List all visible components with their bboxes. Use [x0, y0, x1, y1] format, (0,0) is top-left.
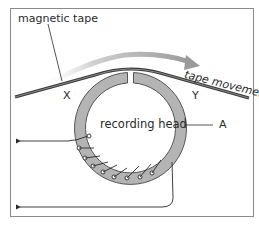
magnetic-tape-label: magnetic tape: [18, 13, 98, 24]
point-x-label: X: [63, 90, 71, 101]
upper-lead: [20, 140, 76, 141]
point-a-label: A: [219, 119, 227, 130]
tape-leader-line: [48, 24, 62, 81]
recording-head-label: recording head: [100, 119, 187, 131]
point-y-label: Y: [192, 90, 199, 101]
recording-head-diagram: [0, 0, 259, 225]
